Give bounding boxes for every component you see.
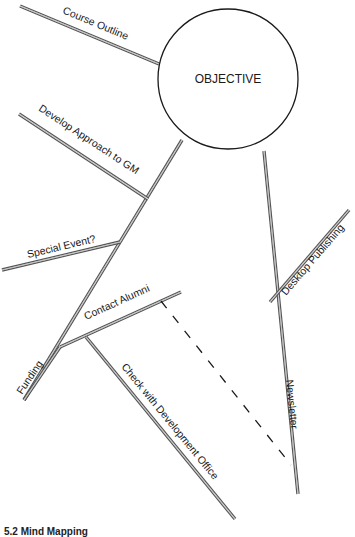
branch-line-develop-approach xyxy=(19,114,148,199)
branch-line-check-dev-office xyxy=(86,337,235,519)
figure-caption: 5.2 Mind Mapping xyxy=(4,526,88,537)
branch-line-newsletter xyxy=(264,151,298,494)
branch-line-main-left xyxy=(24,140,182,400)
branch-label-develop-approach: Develop Approach to GM xyxy=(37,102,142,177)
branch-label-check-dev-office: Check with Development Office xyxy=(119,361,221,482)
branch-label-newsletter: Newsletter xyxy=(284,379,301,430)
objective-label: OBJECTIVE xyxy=(195,72,262,86)
branch-label-desktop-publishing: Desktop Publishing xyxy=(278,221,346,297)
